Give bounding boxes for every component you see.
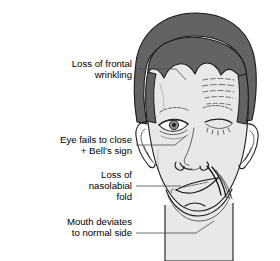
annotation-mouth-deviation-line-2: to normal side	[72, 227, 132, 238]
annotation-mouth-deviation: Mouth deviates to normal side	[67, 216, 132, 238]
annotation-nasolabial-fold-line-1: Loss of	[101, 169, 132, 180]
annotation-nasolabial-fold-line-2: nasolabial	[89, 180, 132, 191]
annotation-nasolabial-fold-line-3: fold	[117, 191, 132, 202]
facial-palsy-illustration: Loss of frontal wrinkling Eye fails to c…	[0, 0, 280, 261]
annotation-eye-closure-line-1: Eye fails to close	[60, 134, 132, 145]
pupil-left	[172, 123, 176, 127]
neck-shape	[165, 203, 233, 261]
facial-palsy-figure: Loss of frontal wrinkling Eye fails to c…	[0, 0, 280, 261]
annotation-frontal-wrinkling-line-2: wrinkling	[94, 69, 132, 80]
annotation-eye-closure-line-2: + Bell's sign	[81, 145, 132, 156]
annotation-mouth-deviation-line-1: Mouth deviates	[67, 216, 132, 227]
annotation-frontal-wrinkling-line-1: Loss of frontal	[72, 58, 132, 69]
